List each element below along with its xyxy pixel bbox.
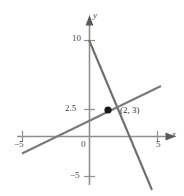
y-tick-label-10: 10: [72, 34, 81, 43]
y-tick-label-neg5: −5: [70, 171, 80, 180]
chart-canvas: [0, 0, 184, 196]
intersection-point-label: (2, 3): [120, 106, 140, 115]
x-tick-label-5: 5: [156, 140, 161, 149]
origin-label: 0: [81, 140, 86, 149]
intersection-point-marker: [104, 106, 111, 113]
rising-line: [22, 86, 161, 154]
y-axis-label: y: [93, 11, 97, 20]
x-tick-label-neg5: −5: [14, 140, 24, 149]
descending-line: [89, 40, 152, 190]
y-tick-label-2-5: 2.5: [65, 104, 76, 113]
x-axis-label: x: [172, 130, 176, 139]
coordinate-plane-figure: y x 10 2.5 −5 −5 0 5 (2, 3): [0, 0, 184, 196]
